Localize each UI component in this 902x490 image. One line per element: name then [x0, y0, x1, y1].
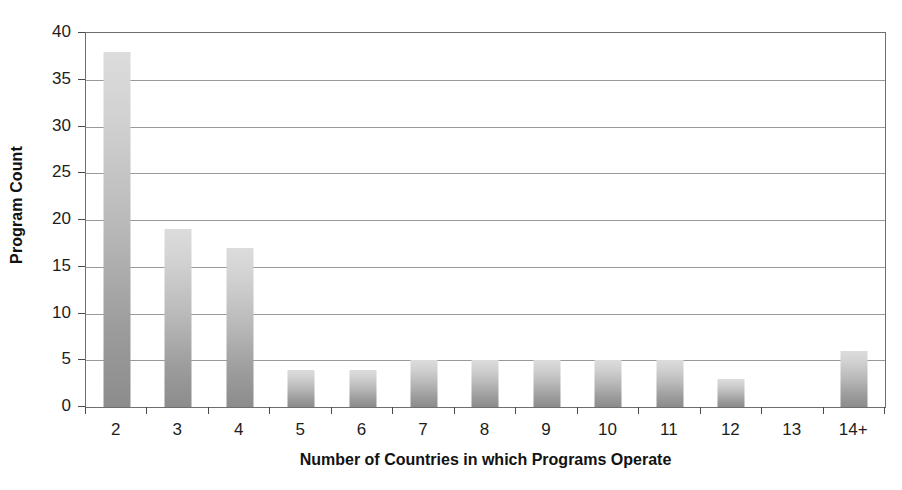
y-axis-tick-mark — [78, 172, 85, 173]
x-axis-title-label: Number of Countries in which Programs Op… — [85, 451, 886, 469]
x-axis-tick-label: 14+ — [839, 420, 868, 440]
x-axis-tick-mark — [269, 407, 270, 414]
bar-slot — [824, 33, 885, 407]
x-axis-tick-mark — [823, 407, 824, 414]
x-axis-tick-label: 11 — [660, 420, 678, 440]
y-axis-tick-label: 15 — [52, 256, 71, 276]
y-axis-tick-label: 5 — [62, 349, 71, 369]
x-axis-tick-label: 5 — [295, 420, 304, 440]
bar-slot — [393, 33, 454, 407]
x-axis-tick-label: 4 — [234, 420, 243, 440]
y-axis-title: Program Count — [0, 0, 34, 410]
x-axis-tick-label: 2 — [111, 420, 120, 440]
bar-slot — [209, 33, 270, 407]
plot-area — [85, 32, 886, 408]
bar — [656, 360, 683, 407]
x-axis-tick-mark — [761, 407, 762, 414]
bar-slot — [455, 33, 516, 407]
y-axis-tick-mark — [78, 79, 85, 80]
y-axis-tick-label: 35 — [52, 69, 71, 89]
x-axis-tick-mark — [577, 407, 578, 414]
bar-slot — [516, 33, 577, 407]
x-axis-tick-mark — [392, 407, 393, 414]
bar-chart: Program Count 0510152025303540 Number of… — [0, 0, 902, 490]
bars-group — [86, 33, 885, 407]
bar — [165, 229, 192, 407]
x-axis-tick-label: 8 — [480, 420, 489, 440]
x-axis-tick-mark — [515, 407, 516, 414]
y-axis-tick-mark — [78, 266, 85, 267]
y-axis-tick-label: 0 — [62, 396, 71, 416]
bar-slot — [270, 33, 331, 407]
y-axis-tick-mark — [78, 406, 85, 407]
y-axis-tick-mark — [78, 219, 85, 220]
x-axis-tick-label: 3 — [172, 420, 181, 440]
x-axis-tick-mark — [884, 407, 885, 414]
y-axis-tick-mark — [78, 126, 85, 127]
y-axis-tick-label: 30 — [52, 116, 71, 136]
x-axis-tick-label: 12 — [721, 420, 740, 440]
bar — [103, 52, 130, 407]
bar — [288, 370, 315, 407]
bar-slot — [701, 33, 762, 407]
x-axis-tick-mark — [331, 407, 332, 414]
x-axis-tick-mark — [146, 407, 147, 414]
bar — [841, 351, 868, 407]
bar — [595, 360, 622, 407]
bar — [718, 379, 745, 407]
y-axis-title-label: Program Count — [8, 146, 26, 264]
x-axis-tick-mark — [700, 407, 701, 414]
y-axis-tick-label: 20 — [52, 209, 71, 229]
y-axis-tick-mark — [78, 359, 85, 360]
bar-slot — [639, 33, 700, 407]
y-axis-tick-label: 10 — [52, 303, 71, 323]
x-axis-tick-mark — [208, 407, 209, 414]
bar-slot — [332, 33, 393, 407]
x-axis-tick-mark — [454, 407, 455, 414]
bar-slot — [762, 33, 823, 407]
bar — [411, 360, 438, 407]
bar — [349, 370, 376, 407]
x-axis-tick-mark — [638, 407, 639, 414]
y-axis-tick-label: 40 — [52, 22, 71, 42]
x-axis-tick-label: 10 — [598, 420, 617, 440]
bar-slot — [578, 33, 639, 407]
x-axis: Number of Countries in which Programs Op… — [85, 406, 886, 490]
x-axis-tick-label: 6 — [357, 420, 366, 440]
x-axis-tick-mark — [85, 407, 86, 414]
bar — [533, 360, 560, 407]
y-axis-tick-mark — [78, 32, 85, 33]
bar — [226, 248, 253, 407]
y-axis-tick-mark — [78, 313, 85, 314]
bar-slot — [147, 33, 208, 407]
x-axis-tick-label: 7 — [418, 420, 427, 440]
x-axis-tick-label: 13 — [782, 420, 801, 440]
y-axis-tick-label: 25 — [52, 162, 71, 182]
bar — [472, 360, 499, 407]
x-axis-tick-label: 9 — [541, 420, 550, 440]
bar-slot — [86, 33, 147, 407]
y-axis-tick-labels: 0510152025303540 — [34, 0, 78, 420]
